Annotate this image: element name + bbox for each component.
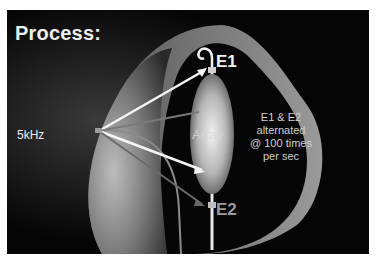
slide: Process: E1 E2 5kHz Array E1 & E2 altern… — [7, 10, 369, 254]
balloon-array-label: Array — [192, 127, 223, 142]
note-line: E1 & E2 — [235, 111, 327, 124]
note-line: alternated — [235, 124, 327, 137]
alternation-note: E1 & E2 alternated @ 100 times per sec — [235, 111, 327, 163]
note-line: per sec — [235, 150, 327, 163]
electrode-e2-label: E2 — [216, 200, 237, 220]
note-line: @ 100 times — [235, 137, 327, 150]
slide-title: Process: — [15, 22, 101, 45]
frequency-label: 5kHz — [17, 128, 44, 142]
electrode-e1-label: E1 — [216, 52, 237, 72]
